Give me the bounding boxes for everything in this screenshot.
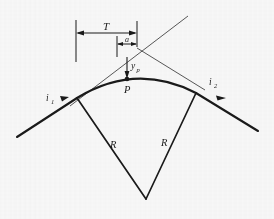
grade-label-i2: i 2 [209, 77, 226, 101]
arrowhead-grade-out [216, 96, 226, 101]
vertical-curve-diagram: T a y p P i 1 i 2 [0, 0, 274, 219]
label-offset-a: a [125, 35, 129, 44]
outgoing-grade-line [196, 93, 258, 131]
dimension-T: T [76, 20, 137, 36]
arrowhead-grade-in [60, 96, 69, 102]
figure-canvas: T a y p P i 1 i 2 [0, 0, 274, 219]
dimension-a: a [117, 35, 137, 46]
label-grade-out: i [209, 77, 212, 87]
label-tangent-length: T [103, 20, 110, 32]
label-mid-ordinate: y [130, 61, 136, 71]
label-radius-right: R [160, 137, 168, 148]
arrowhead-a-right [131, 42, 137, 46]
label-mid-ordinate-subscript: p [136, 66, 141, 73]
arrowhead-T-right [129, 30, 137, 35]
radius-lines [77, 93, 196, 199]
label-grade-in: i [46, 93, 49, 103]
grade-label-i1: i 1 [46, 93, 69, 105]
label-grade-in-subscript: 1 [51, 98, 54, 105]
radius-line-right [146, 93, 196, 199]
vertical-curve-arc [77, 79, 196, 98]
label-grade-out-subscript: 2 [214, 82, 218, 89]
arrowhead-T-left [76, 30, 84, 35]
incoming-grade-line [17, 98, 77, 137]
point-P-marker [125, 77, 130, 82]
label-point-P: P [123, 84, 131, 95]
arrowhead-a-left [117, 42, 123, 46]
dimension-yp: y p [125, 57, 141, 79]
label-radius-left: R [109, 139, 117, 150]
